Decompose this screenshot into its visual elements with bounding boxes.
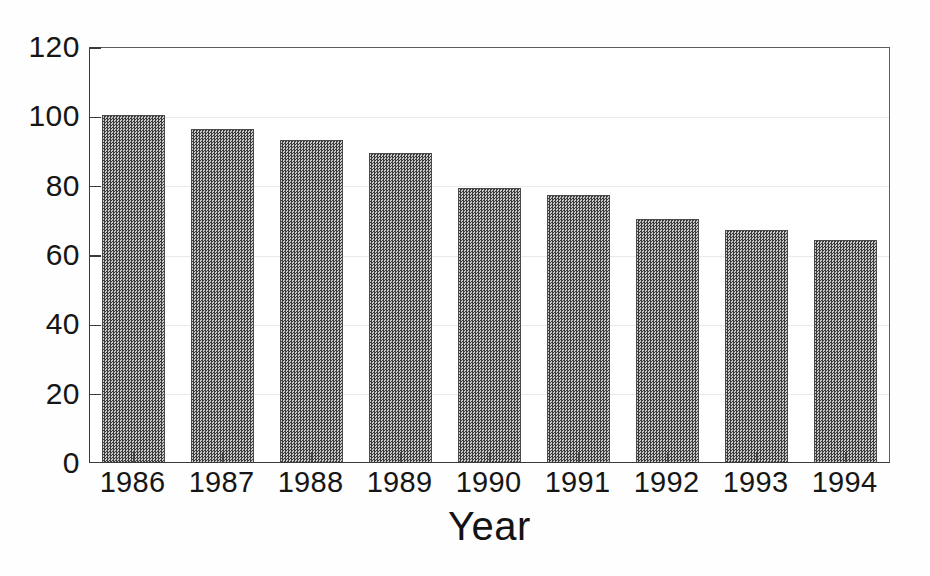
y-axis-labels: 020406080100120 [0,0,80,576]
x-axis-tick-label: 1989 [355,468,445,497]
bar [725,230,788,462]
x-axis-tick-label: 1993 [711,468,801,497]
bar [191,129,254,462]
x-axis-title: Year [89,505,890,547]
y-axis-tick-label: 20 [10,379,80,409]
y-axis-tick-label: 40 [10,309,80,339]
bar [280,140,343,462]
bar [102,115,165,462]
x-axis-tick [756,452,758,462]
x-axis-tick-label: 1990 [444,468,534,497]
x-axis-tick [133,452,135,462]
bar-chart-figure: 020406080100120 198619871988198919901991… [0,0,930,576]
y-axis-tick-label: 120 [10,32,80,62]
x-axis-tick [400,452,402,462]
x-axis-tick-label: 1987 [177,468,267,497]
x-axis-tick-label: 1994 [800,468,890,497]
bar [369,153,432,462]
y-axis-tick-label: 80 [10,171,80,201]
x-axis-tick [222,452,224,462]
x-axis-tick-label: 1988 [266,468,356,497]
x-axis-tick [845,452,847,462]
x-axis-tick [667,452,669,462]
bar [458,188,521,462]
x-axis-tick-label: 1992 [622,468,712,497]
bar [636,219,699,462]
bar [814,240,877,462]
plot-area [89,47,890,463]
x-axis-tick-label: 1991 [533,468,623,497]
x-axis-tick [311,452,313,462]
bar [547,195,610,462]
x-axis-tick [578,452,580,462]
x-axis-tick [489,452,491,462]
y-axis-tick-label: 100 [10,101,80,131]
y-axis-tick-label: 60 [10,240,80,270]
y-axis-tick-label: 0 [10,448,80,478]
bar-series [90,48,889,462]
x-axis-tick-label: 1986 [88,468,178,497]
